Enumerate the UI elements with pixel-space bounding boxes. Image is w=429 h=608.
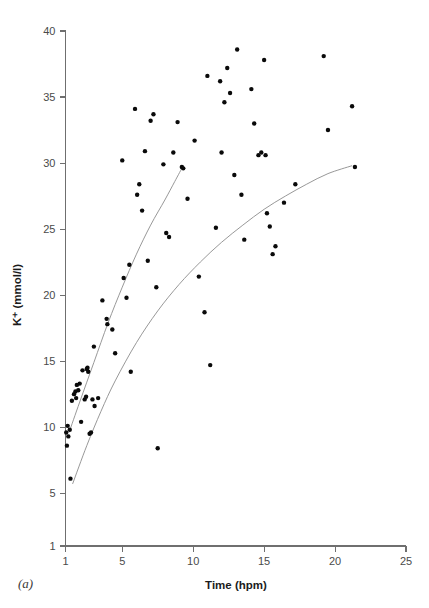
- x-tick-label: 5: [119, 555, 125, 567]
- data-point: [86, 369, 90, 373]
- data-point: [74, 396, 78, 400]
- y-tick-label: 10: [43, 421, 55, 433]
- data-point: [222, 100, 226, 104]
- x-tick-label: 20: [329, 555, 341, 567]
- data-point: [90, 397, 94, 401]
- data-point: [135, 193, 139, 197]
- data-point: [225, 66, 229, 70]
- data-point: [104, 317, 108, 321]
- data-point: [208, 363, 212, 367]
- data-point: [326, 128, 330, 132]
- panel-label: (a): [18, 576, 33, 591]
- y-axis-label: K⁺ (mmol/l): [11, 264, 23, 326]
- data-point: [268, 224, 272, 228]
- data-point: [113, 351, 117, 355]
- data-point: [154, 285, 158, 289]
- data-point: [235, 47, 239, 51]
- data-point: [263, 153, 267, 157]
- data-points: [64, 47, 357, 481]
- data-point: [167, 235, 171, 239]
- y-tick-label: 35: [43, 91, 55, 103]
- plot-axes: 1510152025 1510152025303540: [43, 25, 412, 567]
- x-tick-label: 1: [62, 555, 68, 567]
- data-point: [148, 119, 152, 123]
- data-point: [124, 296, 128, 300]
- data-point: [161, 162, 165, 166]
- data-point: [197, 274, 201, 278]
- data-point: [219, 150, 223, 154]
- data-point: [68, 428, 72, 432]
- data-point: [185, 197, 189, 201]
- data-point: [121, 276, 125, 280]
- data-point: [68, 476, 72, 480]
- y-tick-label: 1: [49, 540, 55, 552]
- y-tick-label: 20: [43, 289, 55, 301]
- data-point: [192, 138, 196, 142]
- data-point: [96, 396, 100, 400]
- x-tick-label: 10: [187, 555, 199, 567]
- data-point: [282, 200, 286, 204]
- axis-lines: [66, 31, 407, 546]
- data-point: [239, 193, 243, 197]
- y-tick-label: 30: [43, 157, 55, 169]
- data-point: [242, 237, 246, 241]
- data-point: [79, 420, 83, 424]
- data-point: [105, 322, 109, 326]
- data-point: [65, 424, 69, 428]
- data-point: [92, 344, 96, 348]
- data-point: [214, 226, 218, 230]
- data-point: [156, 446, 160, 450]
- x-axis-label: Time (hpm): [205, 579, 267, 591]
- y-tick-label: 15: [43, 355, 55, 367]
- data-point: [259, 150, 263, 154]
- data-point: [133, 107, 137, 111]
- data-point: [65, 443, 69, 447]
- data-point: [85, 366, 89, 370]
- data-point: [249, 87, 253, 91]
- data-point: [252, 121, 256, 125]
- data-point: [151, 112, 155, 116]
- data-point: [143, 149, 147, 153]
- data-point: [146, 259, 150, 263]
- data-point: [66, 434, 70, 438]
- data-point: [64, 430, 68, 434]
- lower-fit-curve: [73, 166, 352, 484]
- data-point: [76, 388, 80, 392]
- data-point: [232, 173, 236, 177]
- data-point: [181, 166, 185, 170]
- data-point: [293, 182, 297, 186]
- data-point: [70, 399, 74, 403]
- data-point: [77, 381, 81, 385]
- data-point: [322, 54, 326, 58]
- data-point: [100, 298, 104, 302]
- data-point: [84, 395, 88, 399]
- data-point: [270, 252, 274, 256]
- data-point: [175, 120, 179, 124]
- data-point: [137, 182, 141, 186]
- data-point: [353, 165, 357, 169]
- data-point: [127, 263, 131, 267]
- data-point: [202, 310, 206, 314]
- y-tick-label: 5: [49, 487, 55, 499]
- x-axis-ticks: 1510152025: [62, 546, 412, 567]
- y-tick-label: 40: [43, 25, 55, 37]
- data-point: [262, 58, 266, 62]
- data-point: [171, 150, 175, 154]
- data-point: [92, 404, 96, 408]
- x-tick-label: 25: [400, 555, 412, 567]
- fit-curves: [69, 166, 352, 484]
- data-point: [218, 79, 222, 83]
- data-point: [350, 104, 354, 108]
- scatter-plot-figure: 1510152025 1510152025303540 Time (hpm) K…: [0, 0, 429, 608]
- data-point: [140, 208, 144, 212]
- data-point: [89, 430, 93, 434]
- data-point: [120, 158, 124, 162]
- x-tick-label: 15: [258, 555, 270, 567]
- y-axis-ticks: 1510152025303540: [43, 25, 65, 552]
- data-point: [273, 244, 277, 248]
- data-point: [110, 327, 114, 331]
- data-point: [129, 369, 133, 373]
- y-tick-label: 25: [43, 223, 55, 235]
- data-point: [80, 368, 84, 372]
- data-point: [205, 74, 209, 78]
